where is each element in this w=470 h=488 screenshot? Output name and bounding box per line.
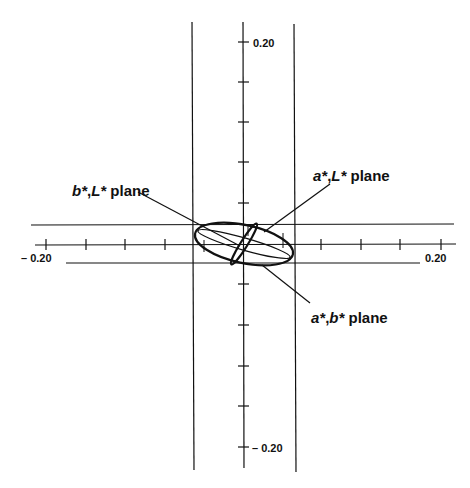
tick-label-bottom: – 0.20 bbox=[252, 442, 283, 454]
bL-plane-label: b*,L* plane bbox=[72, 182, 150, 199]
ab-plane-label: a*,b* plane bbox=[311, 309, 388, 326]
ab-leader-line bbox=[262, 265, 310, 303]
horizontal-axis bbox=[35, 244, 456, 245]
right-vertical-line bbox=[294, 24, 296, 472]
tick-label-left: – 0.20 bbox=[21, 252, 52, 264]
ellipse-diagram: 0.20 – 0.20 – 0.20 0.20 b*,L* plane a*,L… bbox=[0, 0, 470, 488]
bL-leader-line bbox=[138, 192, 240, 246]
tick-label-top: 0.20 bbox=[253, 37, 274, 49]
aL-plane-label: a*,L* plane bbox=[313, 167, 390, 184]
tick-label-right: 0.20 bbox=[425, 252, 446, 264]
left-vertical-line bbox=[192, 22, 194, 470]
